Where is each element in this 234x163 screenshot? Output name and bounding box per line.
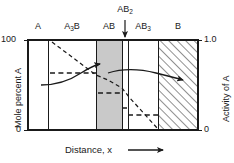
phase-label-AB: AB <box>103 22 115 31</box>
phase-fields <box>28 40 198 130</box>
y-tick-label-100: 100 <box>1 35 16 44</box>
x-axis-title: Distance, x <box>65 145 112 155</box>
y2-axis-title: Activity of A <box>222 75 231 122</box>
phase-label-AB2: AB2 <box>117 5 133 14</box>
phase-label-A: A <box>35 22 41 31</box>
phase-field-A3B <box>48 40 96 130</box>
phase-field-AB3 <box>128 40 158 130</box>
y2-tick-label-0: 0 <box>204 125 209 134</box>
phase-field-AB <box>96 40 122 130</box>
y2-tick-label-1: 1.0 <box>204 35 217 44</box>
diffusion-activity-chart: A A3B AB AB2 AB3 B 100 0 1.0 0 Mole perc… <box>0 0 234 163</box>
phase-field-AB2 <box>122 40 128 130</box>
phase-label-AB3: AB3 <box>135 22 151 31</box>
y-axis-title: Mole percent A <box>14 68 23 128</box>
phase-label-A3B: A3B <box>64 22 80 31</box>
phase-field-B <box>158 40 198 130</box>
phase-label-B: B <box>175 22 181 31</box>
